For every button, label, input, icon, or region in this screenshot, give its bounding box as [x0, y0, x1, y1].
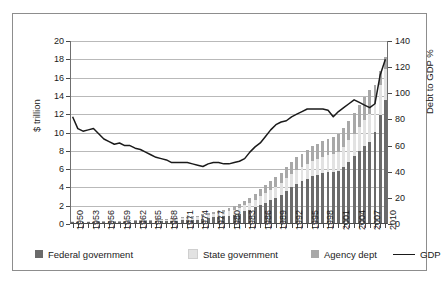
legend-swatch-icon [311, 250, 319, 258]
y-tick-label-left: 2 [59, 201, 64, 210]
x-tick-mark [307, 224, 308, 228]
x-tick-label: 1965 [154, 210, 163, 230]
legend-line-icon [393, 254, 415, 255]
x-tick-label: 1968 [170, 210, 179, 230]
chart-frame: $ trillion Debt to GDP % 024681012141618… [12, 13, 427, 271]
x-tick-mark [260, 224, 261, 228]
y-tick-mark-right [388, 172, 392, 173]
gdp-line-series [70, 41, 388, 224]
x-tick-label: 1980 [233, 210, 242, 230]
x-tick-mark [88, 224, 89, 228]
x-tick-mark [370, 224, 371, 228]
legend-swatch-icon [188, 249, 198, 259]
y-tick-label-right: 20 [395, 193, 405, 202]
y-tick-label-left: 12 [54, 110, 64, 119]
x-tick-label: 1992 [295, 210, 304, 230]
x-tick-label: 1989 [279, 210, 288, 230]
y-tick-mark-right [388, 93, 392, 94]
x-tick-label: 1962 [139, 210, 148, 230]
y-tick-label-left: 10 [54, 128, 64, 137]
legend-item: State government [188, 249, 278, 260]
y-tick-label-left: 16 [54, 73, 64, 82]
y-tick-mark-right [388, 198, 392, 199]
x-tick-mark [135, 224, 136, 228]
y-tick-label-left: 4 [59, 183, 64, 192]
x-tick-label: 2007 [373, 210, 382, 230]
y-tick-label-right: 100 [395, 89, 410, 98]
x-tick-label: 1950 [76, 210, 85, 230]
y-tick-label-left: 14 [54, 91, 64, 100]
x-tick-mark [182, 224, 183, 228]
x-tick-mark [323, 224, 324, 228]
y-tick-mark-right [388, 67, 392, 68]
x-tick-mark [385, 224, 386, 228]
y-tick-mark-right [388, 146, 392, 147]
x-tick-mark [166, 224, 167, 228]
y-tick-mark-right [388, 41, 392, 42]
y-axis-title-right: Debt to GDP % [424, 49, 435, 114]
y-tick-label-left: 0 [59, 220, 64, 229]
legend-item-label: GDP [420, 249, 441, 260]
y-tick-label-right: 60 [395, 141, 405, 150]
y-tick-label-right: 80 [395, 115, 405, 124]
x-tick-label: 1974 [201, 210, 210, 230]
x-tick-mark [73, 224, 74, 228]
y-tick-label-left: 18 [54, 55, 64, 64]
x-tick-mark [198, 224, 199, 228]
x-tick-label: 1953 [92, 210, 101, 230]
x-tick-label: 1977 [217, 210, 226, 230]
legend-item: Agency dept [311, 249, 377, 260]
legend-item: GDP [393, 249, 441, 260]
chart-legend: Federal governmentState governmentAgency… [35, 247, 431, 261]
x-tick-mark [292, 224, 293, 228]
y-tick-label-left: 20 [54, 37, 64, 46]
x-tick-mark [213, 224, 214, 228]
x-tick-label: 1995 [311, 210, 320, 230]
legend-item-label: Agency dept [324, 249, 377, 260]
x-tick-mark [276, 224, 277, 228]
x-tick-mark [229, 224, 230, 228]
y-tick-label-left: 8 [59, 146, 64, 155]
x-tick-label: 1959 [123, 210, 132, 230]
x-tick-label: 1983 [248, 210, 257, 230]
y-tick-label-right: 120 [395, 63, 410, 72]
y-tick-label-right: 140 [395, 37, 410, 46]
x-tick-label: 2001 [342, 210, 351, 230]
plot-area: 02468101214161820 020406080100120140 195… [70, 41, 388, 224]
y-tick-label-right: 40 [395, 167, 405, 176]
x-tick-mark [338, 224, 339, 228]
x-tick-mark [120, 224, 121, 228]
y-tick-mark-right [388, 119, 392, 120]
x-tick-label: 2010 [389, 210, 398, 230]
x-tick-mark [151, 224, 152, 228]
legend-item-label: State government [203, 249, 278, 260]
x-tick-label: 2004 [358, 210, 367, 230]
x-tick-label: 1986 [264, 210, 273, 230]
legend-item-label: Federal government [48, 249, 133, 260]
x-tick-mark [104, 224, 105, 228]
y-axis-title-left: $ trillion [31, 99, 42, 132]
y-tick-mark-left [66, 224, 70, 225]
x-tick-mark [354, 224, 355, 228]
legend-item: Federal government [35, 249, 133, 260]
gdp-line-path [73, 59, 386, 166]
y-tick-label-left: 6 [59, 165, 64, 174]
x-tick-mark [245, 224, 246, 228]
x-tick-label: 1956 [107, 210, 116, 230]
x-tick-label: 1998 [326, 210, 335, 230]
x-tick-label: 1971 [186, 210, 195, 230]
legend-swatch-icon [35, 250, 43, 258]
